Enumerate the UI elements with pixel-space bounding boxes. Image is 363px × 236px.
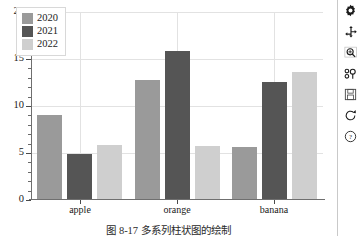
y-tick-minor bbox=[28, 125, 31, 126]
legend-label-2022: 2022 bbox=[37, 39, 58, 50]
y-tick-minor bbox=[28, 115, 31, 116]
settings-icon[interactable] bbox=[338, 0, 363, 21]
chart-plot-area bbox=[31, 12, 323, 200]
bar-apple-2022 bbox=[97, 145, 122, 200]
save-icon[interactable] bbox=[338, 84, 363, 105]
y-tick-minor bbox=[28, 87, 31, 88]
y-tick-minor bbox=[28, 97, 31, 98]
legend-item: 2020 bbox=[22, 12, 58, 25]
y-tick-minor bbox=[28, 78, 31, 79]
chart-figure: 05101520appleorangebanana 2020 2021 2022… bbox=[0, 0, 337, 236]
y-tick-label: 5 bbox=[0, 147, 24, 158]
legend-item: 2022 bbox=[22, 38, 58, 51]
y-tick-mark bbox=[26, 106, 31, 107]
svg-text:?: ? bbox=[349, 133, 352, 140]
legend-swatch-2020 bbox=[22, 13, 33, 24]
bar-apple-2021 bbox=[67, 154, 92, 200]
bar-banana-2021 bbox=[262, 82, 287, 200]
y-tick-minor bbox=[28, 68, 31, 69]
y-tick-minor bbox=[28, 134, 31, 135]
legend-item: 2021 bbox=[22, 25, 58, 38]
legend-swatch-2021 bbox=[22, 26, 33, 37]
bar-apple-2020 bbox=[37, 115, 62, 200]
y-tick-minor bbox=[28, 144, 31, 145]
legend-label-2020: 2020 bbox=[37, 13, 58, 24]
figure-caption: 图 8-17 多系列柱状图的绘制 bbox=[0, 222, 337, 236]
y-tick-label: 0 bbox=[0, 194, 24, 205]
y-tick-minor bbox=[28, 191, 31, 192]
bar-banana-2020 bbox=[232, 147, 257, 200]
x-tick-label-apple: apple bbox=[45, 205, 115, 215]
zoom-icon[interactable] bbox=[338, 42, 363, 63]
subplots-icon[interactable] bbox=[338, 63, 363, 84]
y-tick-minor bbox=[28, 172, 31, 173]
help-icon[interactable]: ? bbox=[338, 126, 363, 147]
bar-orange-2021 bbox=[165, 51, 190, 200]
y-tick-label: 10 bbox=[0, 100, 24, 111]
reset-icon[interactable] bbox=[338, 105, 363, 126]
legend-label-2021: 2021 bbox=[37, 26, 58, 37]
bar-orange-2022 bbox=[195, 146, 220, 200]
bar-orange-2020 bbox=[135, 80, 160, 200]
y-tick-minor bbox=[28, 181, 31, 182]
chart-legend: 2020 2021 2022 bbox=[16, 7, 66, 56]
y-tick-mark bbox=[26, 200, 31, 201]
x-tick-label-banana: banana bbox=[239, 205, 309, 215]
y-tick-mark bbox=[26, 59, 31, 60]
y-tick-mark bbox=[26, 153, 31, 154]
y-tick-minor bbox=[28, 162, 31, 163]
figure-toolbar: ? bbox=[338, 0, 363, 236]
x-tick-label-orange: orange bbox=[142, 205, 212, 215]
bar-banana-2022 bbox=[292, 72, 317, 200]
legend-swatch-2022 bbox=[22, 39, 33, 50]
move-icon[interactable] bbox=[338, 21, 363, 42]
